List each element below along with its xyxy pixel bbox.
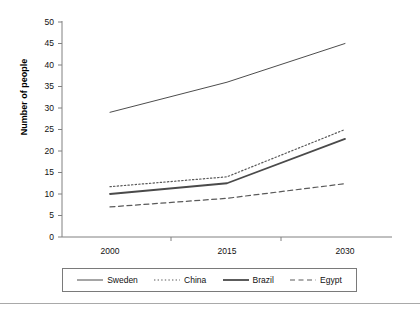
legend-swatch-sweden [77, 275, 103, 285]
legend-item-egypt: Egypt [290, 275, 342, 285]
legend-label-brazil: Brazil [253, 275, 274, 285]
legend-item-brazil: Brazil [223, 275, 274, 285]
legend-swatch-china [154, 275, 180, 285]
legend-swatch-brazil [223, 275, 249, 285]
plot-area [0, 0, 420, 314]
legend-label-sweden: Sweden [107, 275, 138, 285]
bottom-divider [0, 303, 420, 304]
legend-label-egypt: Egypt [320, 275, 342, 285]
chart-legend: Sweden China Brazil Egypt [62, 268, 357, 292]
legend-swatch-egypt [290, 275, 316, 285]
line-chart: Number of people 05101520253035404550 20… [0, 0, 420, 314]
legend-label-china: China [184, 275, 206, 285]
legend-item-china: China [154, 275, 206, 285]
legend-item-sweden: Sweden [77, 275, 138, 285]
series-line-egypt [110, 184, 345, 207]
series-line-sweden [110, 44, 345, 113]
series-line-brazil [110, 139, 345, 194]
series-line-china [110, 130, 345, 187]
